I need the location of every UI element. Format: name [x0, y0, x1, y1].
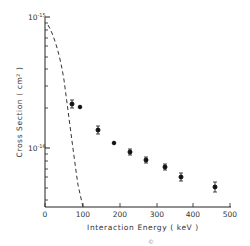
y-tick-1e-16: 10-16: [28, 143, 46, 153]
x-tick-0: 0: [43, 210, 48, 219]
y-axis-label: Cross Section ( cm² ): [15, 67, 24, 158]
data-point: [96, 126, 100, 134]
data-point: [128, 149, 132, 155]
data-point: [70, 100, 74, 108]
data-point: [163, 164, 167, 170]
x-tick-100: 100: [76, 210, 91, 219]
x-ticks: [45, 203, 230, 207]
copyright-mark: ©: [148, 238, 154, 245]
x-tick-500: 500: [223, 210, 238, 219]
x-tick-400: 400: [186, 210, 201, 219]
x-tick-200: 200: [113, 210, 128, 219]
cross-section-chart: 10-15 10-16 0 100 200 300 400 500 Intera…: [0, 0, 250, 246]
x-axis-label: Interaction Energy ( keV ): [87, 223, 199, 232]
measured-points: [70, 100, 217, 192]
y-tick-1e-15: 10-15: [28, 12, 46, 22]
data-point: [213, 182, 217, 192]
x-tick-300: 300: [150, 210, 165, 219]
calculated-dashed-curve: [48, 25, 83, 207]
data-point: [179, 173, 183, 181]
data-point: [144, 157, 148, 163]
data-point: [112, 141, 116, 145]
data-point: [78, 105, 82, 109]
